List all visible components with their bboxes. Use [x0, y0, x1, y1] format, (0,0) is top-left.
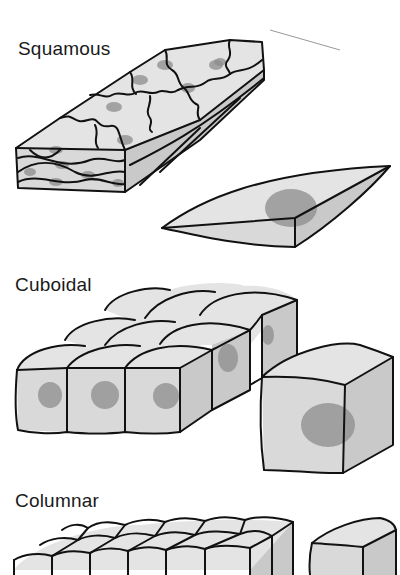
epithelium-illustration	[0, 0, 400, 575]
squamous-single-cell	[162, 166, 390, 247]
squamous-tissue-block	[16, 40, 264, 192]
columnar-tissue-block	[14, 517, 293, 575]
cuboidal-tissue-block	[16, 283, 297, 433]
stray-line	[270, 30, 340, 50]
columnar-single-cell	[310, 518, 396, 575]
cuboidal-single-cell	[261, 344, 393, 473]
